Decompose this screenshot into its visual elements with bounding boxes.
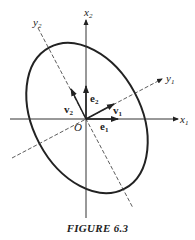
- e2-label: e2: [90, 92, 99, 106]
- figure-caption: FIGURE 6.3: [0, 222, 195, 234]
- y2-axis-label: y2: [32, 16, 42, 30]
- origin-label: O: [74, 121, 82, 133]
- x1-axis-label: x1: [179, 113, 188, 127]
- v2-label: v2: [64, 103, 74, 117]
- figure-6-3-diagram: x2 y2 y1 x1 O e2 e1 v1 v2: [0, 0, 195, 240]
- v1-label: v1: [113, 104, 123, 118]
- e1-label: e1: [100, 120, 109, 134]
- v2-vector: [71, 89, 86, 119]
- x2-axis-label: x2: [83, 6, 93, 20]
- y1-axis-label: y1: [165, 72, 174, 86]
- v1-vector: [86, 104, 114, 119]
